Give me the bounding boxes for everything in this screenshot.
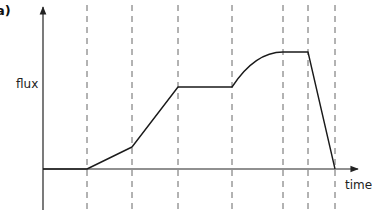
x-axis-label: time xyxy=(345,178,372,192)
phase-boundary-lines xyxy=(87,5,335,210)
y-axis-label: flux xyxy=(16,77,38,91)
